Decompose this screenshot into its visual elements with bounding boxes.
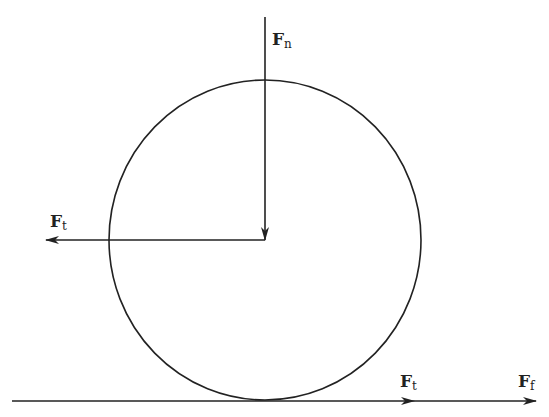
label-ft-ground: Ft (400, 371, 417, 393)
label-fn: Fn (272, 29, 292, 51)
label-ff-ground: Ff (518, 371, 536, 393)
label-ft-center: Ft (50, 211, 67, 233)
free-body-diagram: Fn Ft Ft Ff (0, 0, 549, 417)
